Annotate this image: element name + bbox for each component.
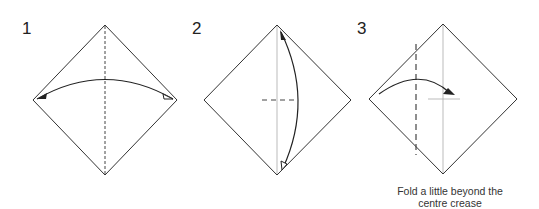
step-3-diagram [369, 24, 517, 174]
step-1-diagram [33, 25, 177, 175]
caption-line-1: Fold a little beyond the [380, 185, 520, 197]
step-3-caption: Fold a little beyond the centre crease [380, 185, 520, 209]
step-2-diagram [204, 25, 351, 175]
caption-line-2: centre crease [380, 197, 520, 209]
paper-square-2 [204, 25, 351, 175]
origami-diagram [0, 0, 539, 209]
